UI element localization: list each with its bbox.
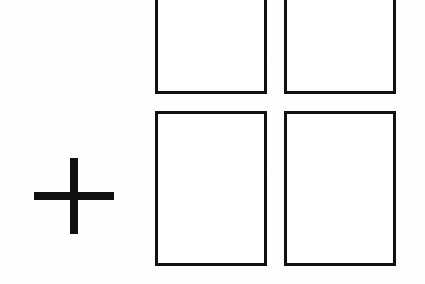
rectangle-bottom-left <box>155 111 267 266</box>
plus-vertical-bar <box>70 158 78 234</box>
plus-sign <box>34 158 114 234</box>
rectangle-top-left <box>155 0 267 94</box>
rectangle-bottom-right <box>284 111 396 266</box>
figure-canvas <box>0 0 425 284</box>
rectangle-top-right <box>284 0 396 94</box>
